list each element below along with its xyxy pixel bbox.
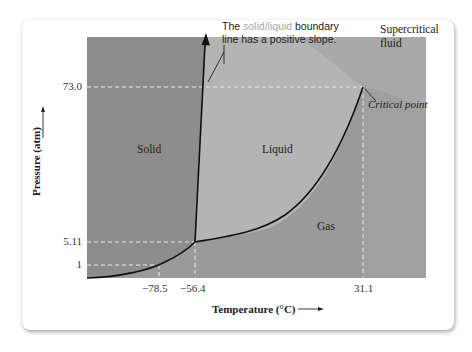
x-tick-minus-78-5: −78.5	[142, 282, 167, 294]
y-tick-73: 73.0	[42, 80, 82, 92]
critical-point-label: Critical point	[368, 98, 428, 110]
y-axis-label: Pressure (atm)	[30, 127, 42, 196]
x-axis-label: Temperature (°C)	[212, 303, 296, 315]
phase-diagram-plot	[0, 0, 472, 352]
x-tick-minus-56-4: −56.4	[180, 282, 205, 294]
y-tick-5-11: 5.11	[42, 235, 82, 247]
y-axis-arrow-icon	[41, 106, 45, 112]
x-axis-arrow-icon	[318, 307, 324, 311]
region-label-supercritical: Supercritical fluid	[380, 22, 439, 50]
region-label-gas: Gas	[317, 220, 335, 232]
x-tick-31-1: 31.1	[354, 282, 373, 294]
y-tick-1: 1	[42, 258, 82, 270]
slope-annotation: The solid/liquid boundary line has a pos…	[222, 20, 339, 46]
region-label-solid: Solid	[137, 143, 161, 155]
region-label-liquid: Liquid	[262, 143, 293, 155]
